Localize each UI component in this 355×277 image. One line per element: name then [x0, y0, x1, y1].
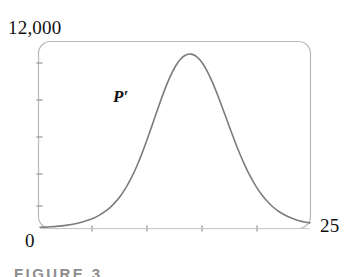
- x-axis-max-label: 25: [320, 216, 339, 235]
- plot-area: [0, 0, 355, 277]
- curve-annotation-label: P′: [113, 88, 128, 105]
- figure-container: 12,000 0 25 P′ FIGURE 3: [0, 0, 355, 277]
- data-curve-p-prime: [40, 54, 310, 227]
- y-axis-max-label: 12,000: [8, 18, 61, 37]
- y-axis-ticks: [37, 63, 43, 206]
- x-axis-min-label: 0: [25, 231, 35, 250]
- figure-caption: FIGURE 3: [14, 266, 214, 277]
